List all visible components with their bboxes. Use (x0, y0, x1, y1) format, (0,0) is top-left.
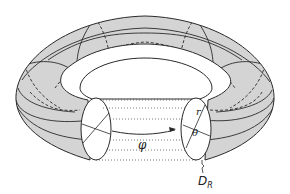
phi-arrowhead (169, 127, 176, 132)
theta-label: θ (192, 127, 198, 138)
d-r-subscript: R (207, 181, 213, 190)
phi-arrow (112, 130, 175, 134)
torus-hole (80, 58, 212, 99)
d-r-leader (202, 160, 204, 173)
d-r-label: DR (198, 174, 213, 190)
phi-label: φ (138, 138, 146, 152)
torus-diagram (0, 0, 290, 194)
r-label: r (196, 106, 201, 117)
d-r-main: D (198, 174, 207, 188)
